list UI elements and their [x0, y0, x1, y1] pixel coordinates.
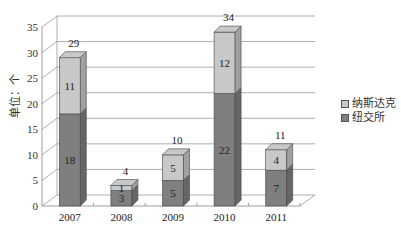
svg-text:11: 11: [275, 129, 286, 141]
svg-text:25: 25: [27, 72, 39, 84]
svg-text:10: 10: [27, 149, 39, 161]
svg-text:15: 15: [27, 123, 39, 135]
legend-item-nasdaq: 纳斯达克: [341, 97, 396, 111]
svg-text:22: 22: [219, 144, 230, 156]
legend-label-nasdaq: 纳斯达克: [352, 97, 396, 111]
svg-text:7: 7: [273, 182, 279, 194]
legend-label-nyse: 纽交所: [352, 111, 385, 125]
svg-text:35: 35: [27, 21, 39, 33]
svg-text:12: 12: [219, 57, 230, 69]
legend-item-nyse: 纽交所: [341, 111, 396, 125]
svg-text:2010: 2010: [214, 211, 237, 223]
svg-text:5: 5: [33, 174, 39, 186]
legend: 纳斯达克 纽交所: [341, 97, 396, 125]
svg-text:18: 18: [64, 154, 76, 166]
bar-segment-2009-1: [163, 149, 190, 181]
svg-text:11: 11: [65, 80, 76, 92]
y-axis-label: 单位：个: [6, 74, 22, 118]
bars: [59, 26, 292, 206]
svg-text:2007: 2007: [59, 211, 82, 223]
svg-text:2011: 2011: [265, 211, 287, 223]
svg-text:34: 34: [223, 11, 235, 23]
svg-text:3: 3: [119, 192, 125, 204]
svg-text:29: 29: [68, 37, 80, 49]
svg-text:0: 0: [33, 200, 39, 212]
legend-swatch-nasdaq: [341, 100, 349, 108]
svg-text:4: 4: [273, 154, 279, 166]
legend-swatch-nyse: [341, 114, 349, 122]
svg-text:5: 5: [170, 187, 176, 199]
bar-segment-2011-1: [266, 144, 293, 170]
svg-text:20: 20: [27, 98, 39, 110]
svg-text:2008: 2008: [110, 211, 133, 223]
svg-text:1: 1: [119, 182, 125, 194]
svg-text:5: 5: [170, 162, 176, 174]
svg-text:10: 10: [172, 134, 184, 146]
bar-segment-2008-1: [111, 180, 138, 191]
svg-text:4: 4: [123, 165, 129, 177]
labels: 1811292007314200855102009221234201074112…: [59, 11, 287, 223]
svg-text:2009: 2009: [162, 211, 185, 223]
svg-text:30: 30: [27, 47, 39, 59]
